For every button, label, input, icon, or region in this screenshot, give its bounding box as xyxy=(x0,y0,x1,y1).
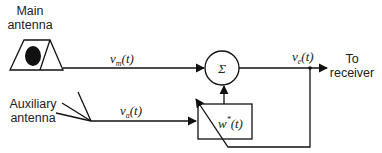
adaptive-canceller-diagram: Main antenna vm(t) Σ ve(t) To receiver A… xyxy=(0,0,382,153)
vm-label: vm(t) xyxy=(110,51,134,68)
feedback-loop-line xyxy=(196,68,310,147)
va-label: va(t) xyxy=(120,103,142,120)
aux-antenna-label-line1: Auxiliary xyxy=(9,97,57,111)
weight-label: w*(t) xyxy=(218,115,243,131)
main-antenna-label-line2: antenna xyxy=(7,18,52,32)
auxiliary-antenna-icon xyxy=(56,92,91,121)
weight-block: w*(t) xyxy=(198,104,252,139)
summer-block: Σ xyxy=(205,51,239,85)
main-antenna-label-line1: Main xyxy=(16,4,43,18)
main-antenna-icon xyxy=(10,40,63,70)
aux-antenna-label-line2: antenna xyxy=(10,111,55,125)
ve-label: ve(t) xyxy=(292,49,314,66)
sigma-symbol: Σ xyxy=(217,61,226,76)
to-receiver-label-line1: To xyxy=(345,52,358,66)
to-receiver-label-line2: receiver xyxy=(330,66,374,80)
